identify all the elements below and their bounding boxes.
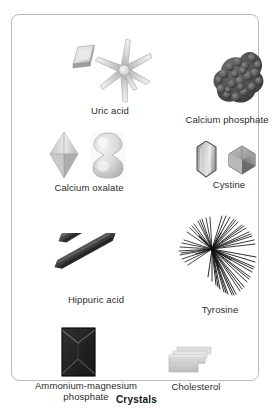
calcium-phosphate-crystal-icon: [208, 49, 273, 111]
crystals-figure: Uric acid: [0, 0, 273, 413]
specimen-cystine: [193, 141, 265, 179]
specimen-ammonium-magnesium-phosphate: [56, 326, 102, 378]
specimen-calcium-phosphate: [208, 49, 273, 111]
specimen-cholesterol: [165, 345, 217, 379]
specimen-label-cholesterol: Cholesterol: [160, 381, 232, 392]
specimen-label-tyrosine: Tyrosine: [184, 304, 256, 315]
specimen-label-calcium-oxalate: Calcium oxalate: [34, 182, 144, 193]
cystine-crystal-icon: [193, 141, 265, 179]
specimen-hippuric-acid: [50, 233, 142, 291]
hippuric-acid-crystal-icon: [50, 233, 142, 291]
calcium-oxalate-crystal-icon: [42, 130, 134, 180]
tyrosine-crystal-icon: [172, 215, 268, 301]
specimen-label-cystine: Cystine: [198, 179, 260, 190]
specimen-label-hippuric-acid: Hippuric acid: [48, 294, 144, 305]
cholesterol-crystal-icon: [165, 345, 217, 379]
specimen-calcium-oxalate: [42, 130, 134, 180]
ammonium-magnesium-phosphate-crystal-icon: [56, 326, 102, 378]
specimen-label-calcium-phosphate: Calcium phosphate: [171, 114, 273, 125]
specimen-label-uric-acid: Uric acid: [64, 105, 156, 116]
specimen-tyrosine: [172, 215, 268, 301]
specimen-uric-acid: [64, 37, 156, 103]
uric-acid-crystal-icon: [64, 37, 156, 103]
figure-caption: Crystals: [0, 394, 273, 405]
figure-panel: Uric acid: [11, 14, 259, 381]
